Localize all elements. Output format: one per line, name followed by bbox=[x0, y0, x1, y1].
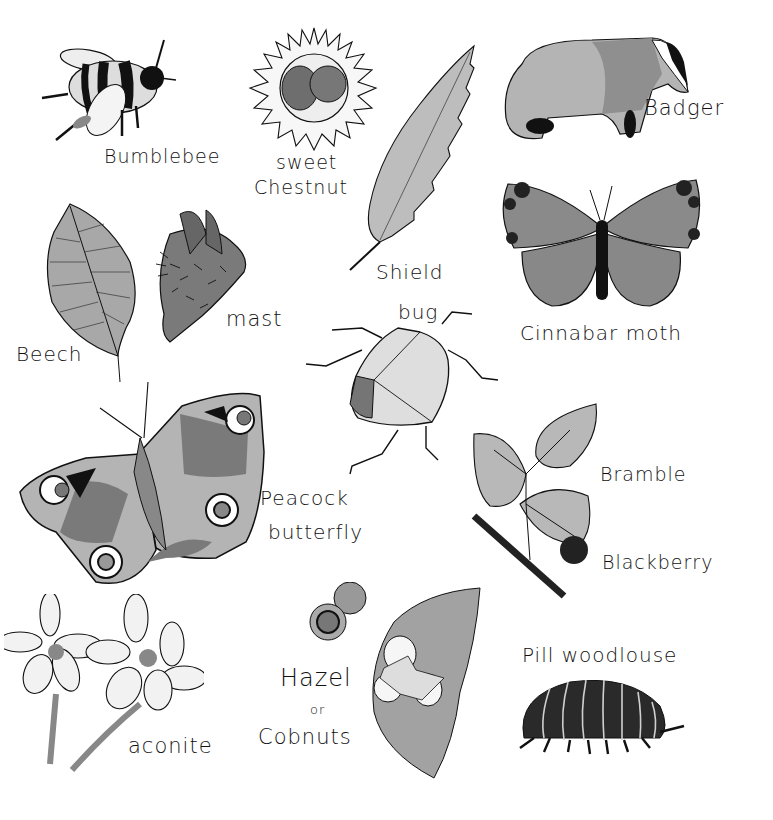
peacock-butterfly-illustration bbox=[16, 382, 268, 588]
sweet-chestnut-label-line2: Chestnut bbox=[254, 178, 348, 198]
bumblebee-label: Bumblebee bbox=[104, 147, 220, 167]
blackberry-label: Blackberry bbox=[602, 553, 713, 573]
illustration-sheet: Bumblebee sweet Chestnut Ba bbox=[0, 0, 773, 820]
shield-bug-label-line1: Shield bbox=[376, 262, 443, 283]
peacock-butterfly-label-line1: Peacock bbox=[260, 488, 349, 509]
bramble-illustration bbox=[470, 400, 610, 600]
beech-label: Beech bbox=[16, 344, 82, 365]
badger-illustration bbox=[502, 34, 702, 146]
cinnabar-moth-label: Cinnabar moth bbox=[520, 323, 682, 344]
cinnabar-moth-illustration bbox=[498, 176, 704, 316]
pill-woodlouse-label: Pill woodlouse bbox=[522, 645, 677, 666]
aconite-label: aconite bbox=[128, 735, 213, 757]
badger-label: Badger bbox=[644, 97, 724, 119]
pill-woodlouse-illustration bbox=[510, 676, 686, 756]
chestnut-leaf-illustration bbox=[340, 44, 480, 274]
peacock-butterfly-label-line2: butterfly bbox=[268, 522, 363, 543]
hazel-illustration bbox=[304, 582, 484, 782]
mast-label: mast bbox=[226, 308, 283, 330]
bramble-label: Bramble bbox=[600, 465, 686, 485]
bumblebee-illustration bbox=[38, 32, 178, 152]
sweet-chestnut-label-line1: sweet bbox=[276, 153, 337, 173]
